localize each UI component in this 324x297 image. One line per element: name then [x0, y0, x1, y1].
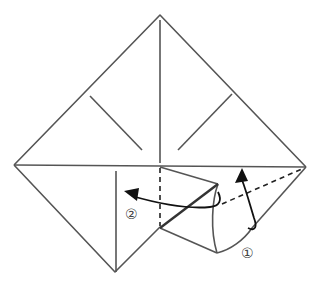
flap-bottom-edge	[160, 228, 217, 253]
flap-top-edge	[160, 167, 218, 184]
arrow-2-head	[124, 188, 139, 201]
valley-line-diagonal	[222, 168, 304, 204]
inner-crease-right	[178, 94, 232, 150]
arrow-1-path	[242, 180, 256, 229]
flap-curve	[213, 184, 218, 253]
inner-crease-left	[90, 96, 142, 150]
step-2-label: ②	[125, 206, 138, 222]
origami-diagram	[0, 0, 324, 297]
step-1-label: ①	[241, 245, 254, 261]
arrow-2-path	[132, 192, 220, 207]
horizontal-crease	[14, 165, 306, 167]
right-lower-edge	[252, 167, 306, 228]
flap-fold-edge	[160, 184, 218, 228]
bottom-left-edge	[14, 165, 160, 272]
arrow-1-head	[235, 168, 248, 183]
